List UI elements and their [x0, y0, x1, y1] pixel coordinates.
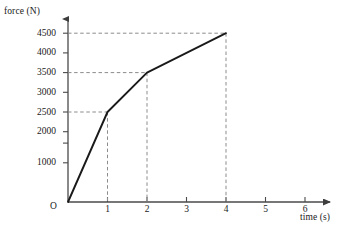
y-axis-title: force (N): [4, 6, 40, 16]
y-tick-label-4000: 4000: [22, 47, 56, 57]
y-tick-label-1000: 1000: [22, 157, 56, 167]
y-axis-ticks: [63, 33, 68, 163]
y-tick-label-3000: 3000: [22, 87, 56, 97]
x-tick-label-2: 2: [139, 204, 155, 214]
force-time-chart: force (N) time (s) O 1000 2000 2500 3000…: [0, 0, 343, 230]
x-tick-label-4: 4: [218, 204, 234, 214]
x-tick-label-1: 1: [100, 204, 116, 214]
y-tick-label-3500: 3500: [22, 67, 56, 77]
origin-label: O: [50, 201, 57, 211]
x-tick-label-3: 3: [179, 204, 195, 214]
x-tick-label-5: 5: [258, 204, 274, 214]
y-tick-label-2000: 2000: [22, 126, 56, 136]
y-tick-label-4500: 4500: [22, 28, 56, 38]
x-axis-ticks: [108, 197, 306, 202]
y-tick-label-2500: 2500: [22, 107, 56, 117]
guide-lines-group: [68, 33, 226, 202]
x-tick-label-6: 6: [297, 204, 313, 214]
